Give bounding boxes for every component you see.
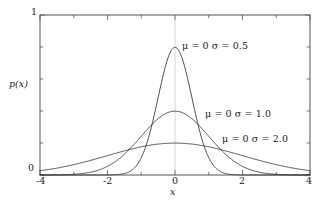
curve-annotation-sigma-0p5: μ = 0 σ = 0.5 bbox=[182, 40, 248, 51]
x-tick-label-0: 0 bbox=[172, 175, 178, 186]
y-tick-label-0: 0 bbox=[28, 162, 34, 173]
x-tick-label-4: 4 bbox=[306, 175, 312, 186]
x-tick-label-neg2: -2 bbox=[103, 175, 112, 186]
curve-annotation-sigma-2p0: μ = 0 σ = 2.0 bbox=[222, 133, 288, 144]
y-tick-label-1: 1 bbox=[31, 6, 37, 17]
x-tick-label-2: 2 bbox=[239, 175, 245, 186]
gaussian-pdf-figure: p(x) x -4 -2 0 2 4 0 1 μ = 0 σ = 0.5 μ =… bbox=[0, 0, 322, 205]
x-axis-title: x bbox=[170, 186, 175, 197]
curve-annotation-sigma-1p0: μ = 0 σ = 1.0 bbox=[205, 108, 271, 119]
plot-canvas bbox=[0, 0, 322, 205]
y-axis-title: p(x) bbox=[9, 78, 28, 89]
x-tick-label-neg4: -4 bbox=[36, 175, 45, 186]
